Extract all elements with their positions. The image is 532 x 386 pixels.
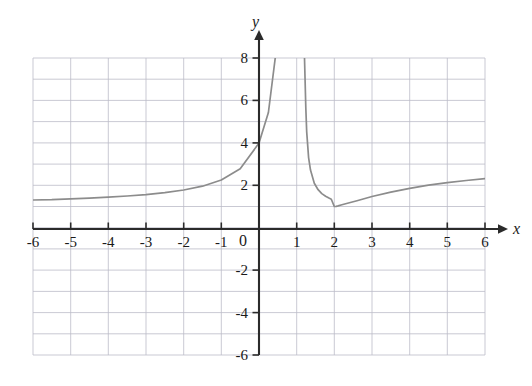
x-tick-label: -6 xyxy=(27,235,40,250)
origin-label: 0 xyxy=(239,233,247,249)
x-tick-label: -4 xyxy=(102,235,115,250)
graph-canvas xyxy=(0,0,532,386)
x-tick-label: -1 xyxy=(215,235,228,250)
x-tick-label: 4 xyxy=(406,235,414,250)
x-tick-label: 3 xyxy=(368,235,376,250)
y-tick-label: 6 xyxy=(241,93,249,108)
y-tick-label: -4 xyxy=(236,305,249,320)
y-axis xyxy=(253,30,264,355)
x-tick-label: -5 xyxy=(64,235,77,250)
y-tick-label: 4 xyxy=(241,135,249,150)
y-tick-label: 2 xyxy=(241,178,249,193)
y-tick-label: -2 xyxy=(236,263,249,278)
y-tick-label: -6 xyxy=(236,348,249,363)
x-tick-label: -2 xyxy=(177,235,190,250)
y-tick-label: 8 xyxy=(241,51,249,66)
x-axis-label: x xyxy=(513,221,520,237)
x-tick-label: 1 xyxy=(293,235,301,250)
x-tick-label: -3 xyxy=(140,235,153,250)
x-axis xyxy=(33,223,508,234)
y-axis-label: y xyxy=(252,14,259,30)
x-tick-label: 5 xyxy=(444,235,452,250)
x-tick-label: 6 xyxy=(481,235,489,250)
x-tick-label: 2 xyxy=(331,235,339,250)
